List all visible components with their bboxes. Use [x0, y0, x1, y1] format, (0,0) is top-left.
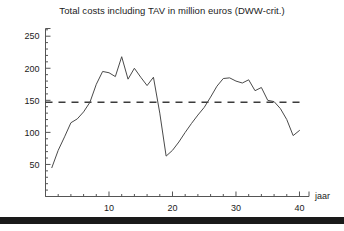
x-axis-tick-label: 40	[294, 203, 304, 213]
axes	[46, 29, 310, 197]
chart-figure: Total costs including TAV in million eur…	[0, 0, 344, 231]
x-axis-tick-label: 30	[231, 203, 241, 213]
data-line-group	[52, 57, 300, 168]
y-axis-tick-label: 200	[24, 64, 39, 74]
y-axis-tick-label: 100	[24, 128, 39, 138]
x-axis-tick-labels: 10203040	[104, 203, 304, 213]
y-axis-tick-labels: 50100150200250	[24, 31, 39, 169]
y-axis-tick-label: 150	[24, 96, 39, 106]
x-axis-title: jaar	[314, 191, 330, 201]
bottom-border-band	[0, 217, 344, 224]
y-axis-tick-label: 50	[29, 160, 39, 170]
line-chart-plot: 50100150200250 10203040 jaar	[0, 0, 344, 231]
y-axis-tick-label: 250	[24, 31, 39, 41]
x-axis-ticks	[46, 192, 300, 197]
x-axis-label-text: jaar	[314, 191, 330, 201]
bottom-filler	[0, 224, 344, 231]
x-axis-tick-label: 20	[167, 203, 177, 213]
y-axis-ticks	[46, 30, 51, 197]
x-axis-tick-label: 10	[104, 203, 114, 213]
